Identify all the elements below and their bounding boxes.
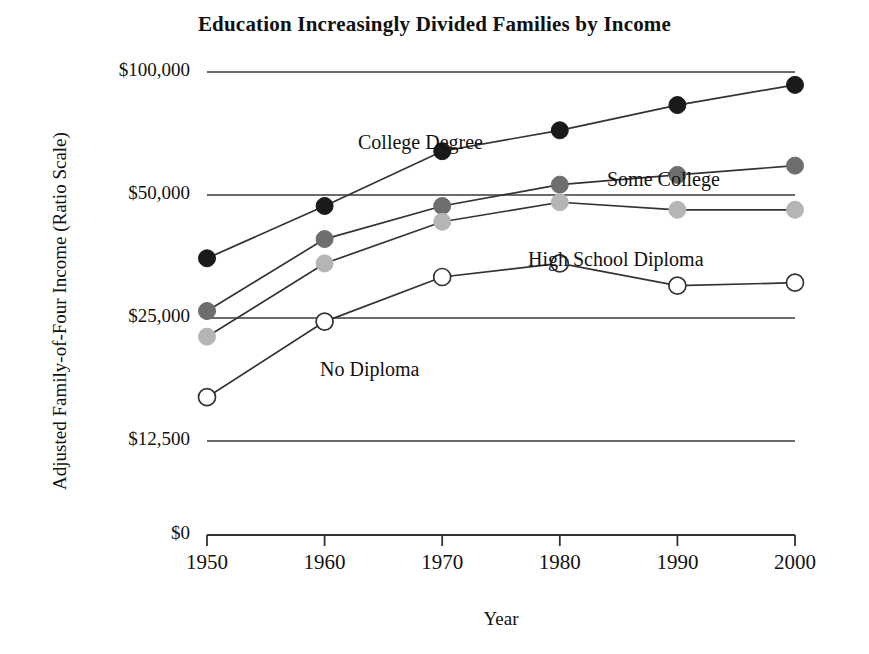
series-label-high-school-diploma: High School Diploma	[528, 248, 704, 271]
series-line-no-diploma	[207, 263, 795, 397]
series-label-no-diploma: No Diploma	[320, 358, 419, 381]
axis-lines	[207, 535, 795, 546]
x-tick-label: 1990	[622, 550, 732, 575]
x-tick-label: 1960	[270, 550, 380, 575]
data-point-marker	[434, 268, 451, 285]
data-point-marker	[199, 328, 216, 345]
data-point-marker	[199, 303, 216, 320]
y-tick-label: $25,000	[30, 305, 190, 327]
data-point-marker	[669, 201, 686, 218]
chart-page: Education Increasingly Divided Families …	[0, 0, 869, 654]
y-tick-label: $100,000	[30, 59, 190, 81]
y-tick-label: $50,000	[30, 182, 190, 204]
data-point-marker	[434, 213, 451, 230]
x-tick-label: 1980	[505, 550, 615, 575]
y-tick-label: $0	[30, 522, 190, 544]
series-label-some-college: Some College	[607, 168, 720, 191]
data-point-marker	[316, 231, 333, 248]
data-point-marker	[551, 122, 568, 139]
data-point-marker	[199, 250, 216, 267]
data-point-marker	[434, 197, 451, 214]
data-point-marker	[551, 194, 568, 211]
data-point-marker	[316, 313, 333, 330]
data-point-marker	[669, 97, 686, 114]
data-point-marker	[316, 197, 333, 214]
series-lines	[207, 85, 795, 397]
data-point-marker	[316, 255, 333, 272]
series-label-college-degree: College Degree	[358, 131, 483, 154]
data-point-marker	[787, 201, 804, 218]
x-tick-label: 2000	[740, 550, 850, 575]
data-point-marker	[787, 76, 804, 93]
data-point-marker	[787, 157, 804, 174]
data-point-marker	[551, 176, 568, 193]
data-point-marker	[199, 389, 216, 406]
series-markers	[199, 76, 804, 405]
x-tick-label: 1950	[152, 550, 262, 575]
data-point-marker	[787, 274, 804, 291]
y-tick-label: $12,500	[30, 428, 190, 450]
x-tick-label: 1970	[387, 550, 497, 575]
data-point-marker	[669, 277, 686, 294]
